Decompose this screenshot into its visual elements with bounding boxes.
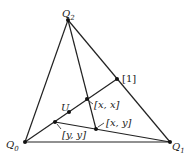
point-q0 [23, 140, 27, 144]
point-one [115, 77, 119, 81]
points [23, 18, 172, 144]
projective-triangle-diagram: Q2 Q0 Q1 [1] [x, x] U [y, y] [x, y] [0, 0, 192, 164]
pointer-xy [98, 123, 104, 127]
point-yy [53, 120, 57, 124]
pointer-yy [57, 124, 61, 129]
label-xy: [x, y] [106, 117, 132, 128]
label-q0: Q0 [6, 139, 19, 153]
label-u: U [61, 102, 70, 113]
point-xx [85, 97, 89, 101]
label-yy: [y, y] [62, 129, 86, 140]
label-one: [1] [122, 73, 136, 84]
point-xy [94, 127, 98, 131]
lines [25, 20, 170, 142]
label-xx: [x, x] [94, 99, 120, 110]
label-q1: Q1 [172, 141, 185, 155]
